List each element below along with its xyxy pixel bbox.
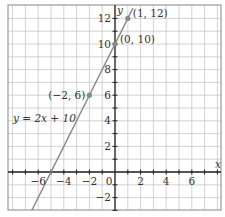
- y-tick-label: 12: [98, 12, 111, 24]
- axis-labels: −6−4−2246−2246810120xy(−2, 6)(0, 10)(1, …: [12, 4, 221, 203]
- x-tick-label: −6: [30, 175, 46, 187]
- x-tick-label: 2: [137, 175, 144, 187]
- point-label: (−2, 6): [48, 89, 85, 101]
- y-tick-label: 2: [104, 140, 111, 152]
- x-tick-label: −2: [82, 175, 97, 187]
- x-tick-label: −4: [56, 175, 72, 187]
- y-tick-label: 6: [104, 89, 111, 101]
- x-axis-label: x: [215, 158, 221, 170]
- data-point: [125, 16, 130, 21]
- x-tick-label: 6: [188, 175, 195, 187]
- data-point: [112, 41, 117, 46]
- point-label: (0, 10): [120, 33, 155, 45]
- y-tick-label: 4: [104, 114, 111, 126]
- y-tick-label: 8: [104, 63, 111, 75]
- data-point: [87, 93, 92, 98]
- point-label: (1, 12): [133, 7, 168, 19]
- x-tick-label: 4: [163, 175, 170, 187]
- chart-canvas: −6−4−2246−2246810120xy(−2, 6)(0, 10)(1, …: [0, 0, 225, 217]
- equation-label: y = 2x + 10: [12, 112, 76, 124]
- y-tick-label: 10: [98, 38, 111, 50]
- y-axis-label: y: [116, 4, 124, 16]
- origin-label: 0: [106, 175, 113, 187]
- y-tick-label: −2: [96, 191, 111, 203]
